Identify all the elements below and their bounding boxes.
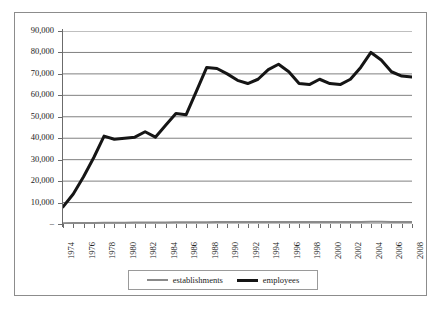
x-tick-label: 1984 <box>170 242 179 259</box>
y-tick-label: 20,000 <box>8 176 54 185</box>
x-tick-mark <box>248 224 249 228</box>
y-tick-label: 90,000 <box>8 26 54 35</box>
y-tick-mark <box>58 138 62 139</box>
chart-legend: establishmentsemployees <box>128 270 318 290</box>
y-tick-mark <box>58 181 62 182</box>
x-tick-mark <box>63 224 64 228</box>
x-tick-mark <box>155 224 156 228</box>
legend-label: establishments <box>173 276 223 285</box>
x-tick-mark <box>258 224 259 228</box>
x-tick-mark <box>104 224 105 228</box>
y-tick-mark <box>58 74 62 75</box>
x-tick-label: 1980 <box>129 242 138 259</box>
x-tick-label: 1974 <box>67 242 76 259</box>
x-tick-mark <box>196 224 197 228</box>
x-tick-label: 1986 <box>190 242 199 259</box>
y-tick-label: 40,000 <box>8 133 54 142</box>
x-tick-label: 2004 <box>375 242 384 259</box>
x-tick-mark <box>320 224 321 228</box>
legend-label: employees <box>263 276 299 285</box>
y-tick-label: 70,000 <box>8 69 54 78</box>
series-line-employees <box>63 52 412 206</box>
x-tick-mark <box>94 224 95 228</box>
y-tick-mark <box>58 117 62 118</box>
x-tick-mark <box>227 224 228 228</box>
x-tick-mark <box>361 224 362 228</box>
chart-figure: –10,00020,00030,00040,00050,00060,00070,… <box>0 0 443 309</box>
x-tick-mark <box>125 224 126 228</box>
x-tick-mark <box>289 224 290 228</box>
x-tick-label: 1994 <box>272 242 281 259</box>
x-tick-label: 2002 <box>354 242 363 259</box>
x-tick-mark <box>166 224 167 228</box>
legend-swatch-icon <box>147 279 168 281</box>
x-tick-mark <box>381 224 382 228</box>
x-tick-label: 1992 <box>252 242 261 259</box>
legend-swatch-icon <box>237 279 258 282</box>
y-tick-label: – <box>8 219 54 228</box>
x-tick-mark <box>340 224 341 228</box>
y-axis-labels: –10,00020,00030,00040,00050,00060,00070,… <box>8 0 54 309</box>
x-tick-mark <box>412 224 413 228</box>
x-tick-mark <box>217 224 218 228</box>
gridlines <box>63 31 412 224</box>
plot-svg <box>63 31 412 224</box>
x-tick-label: 1996 <box>293 242 302 259</box>
x-tick-mark <box>309 224 310 228</box>
x-tick-mark <box>207 224 208 228</box>
y-tick-mark <box>58 31 62 32</box>
plot-area <box>63 31 412 224</box>
legend-item-establishments: establishments <box>147 276 223 285</box>
x-axis-labels: 1974197619781980198219841986198819901992… <box>63 230 413 264</box>
x-tick-mark <box>145 224 146 228</box>
x-tick-label: 2008 <box>416 242 425 259</box>
y-tick-label: 80,000 <box>8 47 54 56</box>
y-tick-mark <box>58 160 62 161</box>
x-tick-mark <box>268 224 269 228</box>
x-tick-mark <box>114 224 115 228</box>
x-tick-label: 1988 <box>211 242 220 259</box>
x-tick-mark <box>402 224 403 228</box>
x-tick-mark <box>391 224 392 228</box>
y-tick-mark <box>58 203 62 204</box>
x-tick-mark <box>371 224 372 228</box>
x-tick-label: 2006 <box>395 242 404 259</box>
y-tick-label: 30,000 <box>8 155 54 164</box>
x-tick-label: 1982 <box>149 242 158 259</box>
x-tick-label: 1976 <box>88 242 97 259</box>
x-tick-mark <box>238 224 239 228</box>
x-tick-label: 1990 <box>231 242 240 259</box>
y-tick-label: 60,000 <box>8 90 54 99</box>
x-tick-mark <box>330 224 331 228</box>
x-tick-mark <box>186 224 187 228</box>
y-tick-label: 50,000 <box>8 112 54 121</box>
x-tick-mark <box>176 224 177 228</box>
series-line-establishments <box>63 222 412 223</box>
x-tick-mark <box>279 224 280 228</box>
x-tick-label: 1998 <box>313 242 322 259</box>
x-tick-mark <box>135 224 136 228</box>
y-tick-label: 10,000 <box>8 198 54 207</box>
y-tick-mark <box>58 52 62 53</box>
x-axis-ticks <box>63 224 413 229</box>
x-tick-label: 1978 <box>108 242 117 259</box>
x-tick-mark <box>84 224 85 228</box>
legend-item-employees: employees <box>237 276 299 285</box>
x-tick-mark <box>299 224 300 228</box>
x-tick-label: 2000 <box>334 242 343 259</box>
x-tick-mark <box>73 224 74 228</box>
y-tick-mark <box>58 95 62 96</box>
x-tick-mark <box>350 224 351 228</box>
y-tick-mark <box>58 224 62 225</box>
